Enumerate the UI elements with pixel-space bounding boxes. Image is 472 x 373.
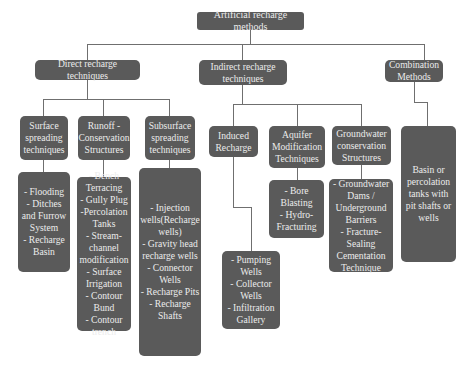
node-surface-spreading-techniques: Surface spreading techniques: [20, 116, 68, 160]
connector-surface-down: [43, 160, 44, 172]
connector-induced-down2: [251, 207, 252, 251]
leaf-aquifer-modification-items: - Bore Blasting - Hydro- Fracturing: [269, 180, 324, 238]
node-subsurface-spreading-techniques: Subsurface spreading techniques: [145, 116, 195, 160]
root-node-artificial-recharge-methods: Artificial recharge methods: [197, 12, 304, 30]
leaf-subsurface-spreading-items: - Injection wells(Recharge wells) - Grav…: [139, 168, 201, 356]
connector-to-aquifer: [297, 104, 298, 126]
connector-aquifer-down: [297, 168, 298, 180]
connector-induced-down: [233, 157, 234, 207]
connector-to-combination: [424, 44, 425, 60]
connector-subsurface-down: [169, 160, 170, 168]
connector-induced-elbow: [233, 207, 251, 208]
leaf-runoff-conservation-items: - Bench Terracing - Gully Plug -Percolat…: [77, 177, 131, 331]
connector-to-groundwater: [361, 104, 362, 126]
connector-to-indirect: [242, 44, 243, 60]
connector-combination-elbow: [414, 102, 427, 103]
node-combination-methods: Combination Methods: [385, 60, 443, 82]
connector-to-induced: [233, 104, 234, 126]
leaf-surface-spreading-items: - Flooding - Ditches and Furrow System -…: [18, 172, 70, 272]
connector-to-runoff: [103, 99, 104, 116]
connector-to-subsurface: [169, 99, 170, 116]
connector-combination-down2: [427, 102, 428, 126]
connector-direct-down: [87, 80, 88, 99]
leaf-groundwater-conservation-items: - Groundwater Dams / Underground Barrier…: [329, 179, 393, 272]
node-aquifer-modification-techniques: Aquifer Modification Techniques: [269, 126, 325, 168]
node-groundwater-conservation-structures: Groundwater conservation Structures: [332, 126, 391, 165]
node-induced-recharge: Induced Recharge: [209, 126, 258, 157]
connector-indirect-down: [242, 85, 243, 104]
node-indirect-recharge-techniques: Indirect recharge techniques: [199, 60, 287, 85]
connector-to-surface: [43, 99, 44, 116]
node-runoff-conservation-structures: Runoff - Conservation Structures: [78, 116, 130, 160]
connector-combination-down: [414, 80, 415, 102]
node-direct-recharge-techniques: Direct recharge techniques: [35, 60, 140, 80]
connector-direct-bus: [43, 99, 170, 100]
connector-level1-bus: [87, 44, 425, 45]
leaf-induced-recharge-items: - Pumping Wells - Collector Wells - Infi…: [222, 251, 280, 329]
leaf-combination-items: Basin or percolation tanks with pit shaf…: [401, 126, 456, 262]
